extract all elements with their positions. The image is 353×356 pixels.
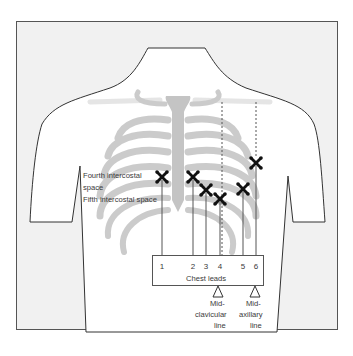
lead-number-5: 5 <box>238 263 248 271</box>
midclavicular-label-2: clavicular <box>195 311 227 319</box>
midclavicular-label-3: line <box>214 322 226 330</box>
lead-number-2: 2 <box>188 263 198 271</box>
midaxillary-label-1: Mid- <box>246 300 261 308</box>
lead-number-3: 3 <box>201 263 211 271</box>
midaxillary-label-2: axillary <box>239 311 263 319</box>
fourth-intercostal-label: Fourth intercostal <box>83 172 142 180</box>
ecg-chest-lead-diagram: 1 2 3 4 5 6 Chest leads Fourth intercost… <box>0 0 353 356</box>
fourth-intercostal-space-label: space <box>83 184 103 192</box>
diagram-canvas <box>0 0 353 356</box>
lead-number-1: 1 <box>157 263 167 271</box>
fifth-intercostal-label: Fifth intercostal space <box>83 196 157 204</box>
midclavicular-label-1: Mid- <box>210 300 225 308</box>
chest-leads-label: Chest leads <box>186 275 226 283</box>
lead-number-4: 4 <box>215 263 225 271</box>
midaxillary-label-3: line <box>250 322 262 330</box>
lead-number-6: 6 <box>251 263 261 271</box>
